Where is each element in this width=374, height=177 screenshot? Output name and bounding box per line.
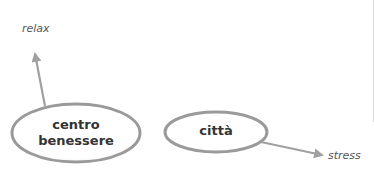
- node-centro-benessere: centro benessere: [12, 117, 140, 149]
- arrow-to-stress: [261, 142, 322, 155]
- node-citta: città: [165, 123, 267, 139]
- node-centro-benessere-line2: benessere: [12, 133, 140, 149]
- label-stress: stress: [328, 149, 361, 162]
- arrow-to-relax: [35, 54, 45, 106]
- node-centro-benessere-line1: centro: [12, 117, 140, 133]
- label-relax: relax: [22, 22, 50, 35]
- diagram-canvas: [0, 0, 374, 177]
